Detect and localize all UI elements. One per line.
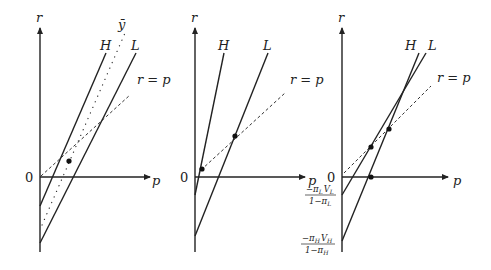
l-label: L: [262, 38, 272, 53]
r-axis-label: r: [338, 10, 345, 25]
panel-3: r p 0 H L r = p −πLVL 1−πL −πHVH: [301, 10, 471, 256]
h-label: H: [217, 38, 230, 53]
l-label: L: [130, 38, 140, 53]
diagram-canvas: r p 0 H L ȳ r = p r p 0 H L r = p: [0, 0, 491, 270]
panel-2: r p 0 H L r = p: [180, 10, 324, 252]
diagonal-label: r = p: [137, 72, 171, 87]
p-axis-label: p: [453, 173, 462, 188]
svg-text:1−πH: 1−πH: [305, 245, 329, 256]
h-intercept-label: −πHVH 1−πH: [301, 233, 335, 256]
svg-text:−πLVL: −πLVL: [306, 184, 334, 195]
h-line: [342, 53, 419, 241]
intersection-point-h: [386, 126, 391, 131]
r-axis-label: r: [36, 10, 43, 25]
l-line: [40, 53, 136, 243]
h-label: H: [404, 38, 417, 53]
r-axis-label: r: [191, 10, 198, 25]
svg-text:1−πL: 1−πL: [309, 196, 331, 207]
diagonal-line: [41, 95, 130, 176]
origin-label: 0: [327, 170, 335, 185]
panel-1: r p 0 H L ȳ r = p: [25, 10, 171, 252]
l-intercept-label: −πLVL 1−πL: [305, 184, 336, 207]
p-axis-label: p: [152, 173, 161, 188]
diagonal-label: r = p: [290, 72, 324, 87]
h-line: [40, 53, 106, 206]
l-line: [342, 53, 426, 195]
svg-text:−πHVH: −πHVH: [302, 233, 333, 244]
h-label: H: [99, 38, 112, 53]
origin-label: 0: [180, 170, 188, 185]
origin-label: 0: [25, 170, 33, 185]
intersection-point-l: [368, 144, 373, 149]
l-label: L: [427, 38, 437, 53]
intersection-point: [66, 158, 71, 163]
intersection-point-l: [232, 133, 237, 138]
intersection-point-h: [199, 166, 204, 171]
diagonal-label: r = p: [437, 70, 471, 85]
p-axis-intercept-point: [368, 174, 373, 179]
ybar-label: ȳ: [117, 17, 126, 32]
ybar-line: [42, 33, 125, 225]
